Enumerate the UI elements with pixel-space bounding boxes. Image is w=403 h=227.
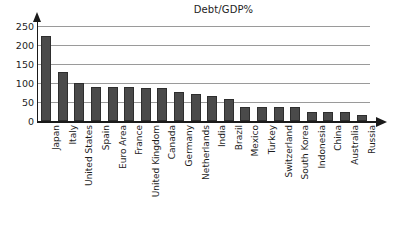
chart-title-text: Debt/GDP%	[194, 4, 253, 15]
x-label-russia: Russia	[366, 96, 376, 125]
x-label-slot: China	[320, 123, 337, 223]
x-label-slot: India	[204, 123, 221, 223]
x-label-south-korea: South Korea	[300, 70, 310, 125]
y-tick-label-50: 50	[2, 97, 34, 108]
x-label-switzerland: Switzerland	[283, 73, 293, 126]
x-label-brazil: Brazil	[233, 100, 243, 125]
x-axis-arrow-icon	[376, 117, 387, 127]
x-label-spain: Spain	[101, 100, 111, 125]
x-label-slot: Euro Area	[104, 123, 121, 223]
x-label-slot: Germany	[171, 123, 188, 223]
debt-to-gdp-bar-chart: Debt/GDP% 050100150200250 JapanItalyUnit…	[0, 0, 403, 227]
x-label-slot: France	[121, 123, 138, 223]
x-label-india: India	[217, 103, 227, 125]
x-label-slot: Italy	[55, 123, 72, 223]
x-label-slot: United Kingdom	[138, 123, 155, 223]
x-label-euro-area: Euro Area	[117, 81, 127, 125]
x-label-canada: Canada	[167, 91, 177, 125]
y-axis-arrow-icon	[33, 12, 41, 22]
chart-title: Debt/GDP%	[0, 4, 403, 15]
x-label-indonesia: Indonesia	[316, 81, 326, 125]
x-axis-category-labels: JapanItalyUnited StatesSpainEuro AreaFra…	[38, 123, 370, 223]
x-label-slot: South Korea	[287, 123, 304, 223]
y-tick-label-250: 250	[2, 21, 34, 32]
x-label-turkey: Turkey	[267, 96, 277, 125]
x-label-netherlands: Netherlands	[200, 70, 210, 125]
x-label-slot: Indonesia	[304, 123, 321, 223]
x-label-united-kingdom: United Kingdom	[150, 53, 160, 125]
x-label-slot: Canada	[154, 123, 171, 223]
x-label-slot: Spain	[88, 123, 105, 223]
y-tick-label-0: 0	[2, 116, 34, 127]
x-label-slot: Russia	[353, 123, 370, 223]
x-label-slot: Mexico	[237, 123, 254, 223]
y-tick-label-150: 150	[2, 59, 34, 70]
y-tick-label-200: 200	[2, 40, 34, 51]
x-label-slot: Switzerland	[270, 123, 287, 223]
x-label-china: China	[333, 99, 343, 125]
y-tick-label-100: 100	[2, 78, 34, 89]
x-label-japan: Japan	[51, 100, 61, 125]
y-axis-tick-labels: 050100150200250	[0, 0, 34, 227]
x-label-slot: Brazil	[221, 123, 238, 223]
x-label-united-states: United States	[84, 64, 94, 125]
x-label-slot: Australia	[337, 123, 354, 223]
x-label-mexico: Mexico	[250, 94, 260, 125]
x-label-slot: Japan	[38, 123, 55, 223]
x-label-slot: Turkey	[254, 123, 271, 223]
x-label-france: France	[134, 95, 144, 125]
x-label-slot: Netherlands	[187, 123, 204, 223]
x-label-germany: Germany	[184, 84, 194, 125]
x-label-australia: Australia	[349, 85, 359, 125]
x-label-slot: United States	[71, 123, 88, 223]
